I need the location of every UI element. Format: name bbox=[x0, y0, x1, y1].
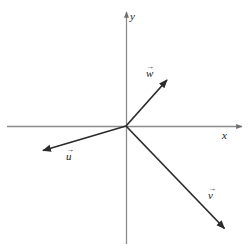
vector-v-arrow bbox=[126, 126, 225, 229]
vector-v-label: → v bbox=[208, 190, 213, 201]
vector-w-arrow bbox=[126, 80, 167, 126]
y-axis-label: y bbox=[130, 11, 135, 22]
vector-v-accent-arrow-icon: → bbox=[208, 185, 213, 193]
vector-w-label: → w bbox=[146, 68, 153, 79]
vector-u-arrow bbox=[43, 126, 126, 151]
vector-u-label: → u bbox=[66, 151, 72, 162]
vector-w-accent-arrow-icon: → bbox=[146, 63, 153, 71]
coordinate-plane-svg bbox=[0, 0, 251, 249]
vector-diagram-figure: y x → w → u → v bbox=[0, 0, 251, 249]
vector-u-accent-arrow-icon: → bbox=[66, 146, 72, 154]
x-axis-label: x bbox=[222, 130, 227, 141]
